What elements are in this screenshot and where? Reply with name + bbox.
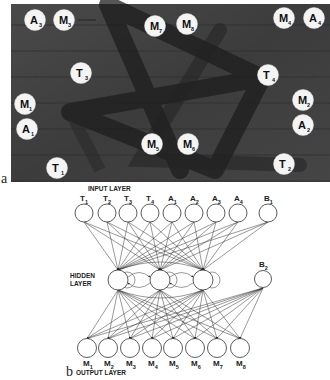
svg-text:7: 7	[159, 28, 162, 34]
svg-text:T: T	[52, 162, 59, 174]
output-node-m8-label: M8	[236, 359, 246, 370]
marker-m5: M5	[142, 134, 163, 155]
svg-text:M: M	[20, 98, 29, 110]
marker-t3: T3	[71, 63, 92, 84]
hidden-bias-node-b2-label: B2	[259, 260, 268, 271]
network-nodes: T1T2T3T4A1A2A3A4B1B2M1M2M3M4M5M6M7M8	[75, 194, 277, 370]
input-node-t2	[98, 204, 116, 222]
panel-b-network: INPUT LAYER HIDDEN LAYER OUTPUT LAYER b …	[66, 185, 277, 379]
input-node-a4-label: A4	[234, 194, 244, 205]
input-node-a2	[185, 204, 203, 222]
svg-text:A: A	[309, 12, 317, 24]
output-node-m3	[121, 339, 140, 358]
output-node-m5-label: M5	[169, 359, 179, 370]
output-node-m1	[78, 339, 97, 358]
hidden-layer-label-2: LAYER	[70, 280, 92, 287]
svg-text:M: M	[150, 20, 159, 32]
input-node-t4-label: T4	[146, 194, 155, 205]
output-node-m8	[231, 339, 250, 358]
svg-text:M: M	[182, 18, 191, 30]
svg-text:M: M	[279, 12, 288, 24]
svg-text:2: 2	[307, 127, 310, 133]
input-node-t3-label: T3	[124, 194, 132, 205]
marker-a1: A1	[17, 119, 38, 140]
svg-text:T: T	[76, 67, 83, 79]
output-node-m6-label: M6	[191, 359, 201, 370]
output-node-m3-label: M3	[126, 359, 136, 370]
svg-text:3: 3	[85, 75, 88, 81]
output-node-m1-label: M1	[83, 359, 93, 370]
marker-t1: T1	[47, 158, 68, 179]
hidden-node-2	[150, 270, 170, 290]
output-node-m4-label: M4	[148, 359, 159, 370]
marker-m6: M6	[178, 134, 199, 155]
panel-a-label: a	[1, 171, 8, 186]
svg-text:T: T	[279, 158, 286, 170]
svg-text:8: 8	[191, 26, 194, 32]
marker-a4: A4	[304, 8, 325, 29]
input-node-t4	[141, 204, 159, 222]
marker-a3: A3	[25, 10, 46, 31]
svg-text:2: 2	[288, 166, 291, 172]
svg-text:3: 3	[39, 22, 42, 28]
input-node-a4	[229, 204, 247, 222]
input-node-a3	[207, 204, 225, 222]
marker-m8: M8	[177, 14, 198, 35]
marker-m2: M2	[293, 90, 314, 111]
panel-a-photo: a A3M3M7M8M4A4T3T4M1M2A1A2M5M6T1T2	[1, 4, 330, 186]
svg-text:5: 5	[156, 146, 159, 152]
hidden-node-3	[193, 270, 213, 290]
svg-text:M: M	[298, 94, 307, 106]
svg-text:6: 6	[192, 146, 195, 152]
hidden-bias-node-b2	[255, 271, 272, 288]
input-node-b1-label: B1	[264, 194, 273, 205]
output-layer-label: OUTPUT LAYER	[76, 369, 126, 376]
svg-text:1: 1	[29, 106, 32, 112]
input-layer-label: INPUT LAYER	[88, 185, 131, 192]
marker-m3: M3	[54, 10, 75, 31]
marker-a2: A2	[293, 115, 314, 136]
output-node-m4	[143, 339, 162, 358]
svg-text:T: T	[263, 69, 270, 81]
output-node-m7-label: M7	[213, 359, 223, 370]
output-node-m6	[186, 339, 205, 358]
svg-text:A: A	[30, 14, 38, 26]
output-node-m7	[208, 339, 227, 358]
marker-m7: M7	[145, 16, 166, 37]
input-node-t1-label: T1	[80, 194, 88, 205]
svg-text:1: 1	[61, 170, 64, 176]
svg-text:2: 2	[307, 102, 310, 108]
marker-t4: T4	[258, 65, 279, 86]
marker-m1: M1	[15, 94, 36, 115]
input-node-a1	[163, 204, 181, 222]
input-node-t2-label: T2	[103, 194, 111, 205]
svg-text:A: A	[298, 119, 306, 131]
svg-text:M: M	[183, 138, 192, 150]
input-node-a3-label: A3	[212, 194, 221, 205]
output-node-m2	[99, 339, 118, 358]
output-node-m5	[164, 339, 183, 358]
marker-m4: M4	[274, 8, 295, 29]
hidden-node-1	[108, 270, 128, 290]
panel-b-label: b	[66, 364, 73, 379]
input-node-t3	[119, 204, 137, 222]
marker-t2: T2	[274, 154, 295, 175]
input-node-a1-label: A1	[168, 194, 177, 205]
svg-text:A: A	[22, 123, 30, 135]
input-node-b1	[259, 204, 277, 222]
svg-text:1: 1	[31, 131, 34, 137]
input-node-t1	[75, 204, 93, 222]
input-node-a2-label: A2	[190, 194, 199, 205]
svg-text:M: M	[59, 14, 68, 26]
svg-text:M: M	[147, 138, 156, 150]
svg-text:3: 3	[68, 22, 71, 28]
hidden-layer-label-1: HIDDEN	[70, 272, 95, 279]
output-node-m2-label: M2	[104, 359, 114, 370]
figure: a A3M3M7M8M4A4T3T4M1M2A1A2M5M6T1T2 INPUT…	[0, 0, 330, 380]
